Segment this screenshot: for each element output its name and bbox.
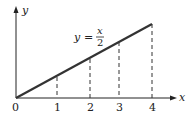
equation-equals: =: [84, 31, 93, 44]
tick-label-1: 1: [54, 101, 61, 114]
equation-lhs: y: [73, 31, 81, 44]
x-axis-arrow-icon: [170, 96, 177, 101]
tick-label-4: 4: [149, 101, 156, 114]
tick-label-0: 0: [12, 101, 19, 114]
equation-numerator: x: [97, 25, 103, 36]
y-axis-label: y: [21, 4, 29, 17]
equation-annotation: y = x 2: [73, 25, 104, 48]
x-axis-label: x: [179, 91, 186, 104]
chart: y x 0 1 2 3 4 y = x 2: [0, 0, 189, 117]
equation-denominator: 2: [97, 37, 103, 48]
tick-label-3: 3: [116, 101, 123, 114]
y-axis-arrow-icon: [14, 6, 19, 13]
tick-label-2: 2: [87, 101, 94, 114]
